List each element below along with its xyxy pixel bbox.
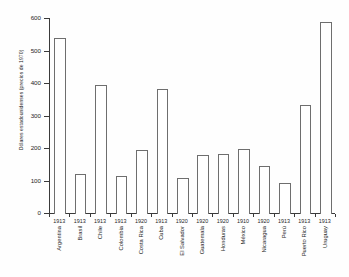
x-tick-mark [315,214,316,217]
bar [300,105,312,214]
bar [259,166,271,214]
x-country-label-text: Guatemala [199,226,205,254]
x-country-label-wrap: Brasil [70,226,90,274]
bar-chart: Dólares estadounidenses (precios de 1970… [0,0,349,277]
x-tick-mark [335,214,336,217]
x-tick-mark [49,214,50,217]
x-country-label-wrap: El Salvador [172,226,192,274]
x-year-label: 1920 [192,218,212,224]
x-country-label-text: Brasil [77,226,83,241]
x-country-label-text: México [240,226,246,244]
y-tick-mark [44,116,49,117]
y-tick-label: 500 [12,48,41,54]
x-country-label-wrap: Honduras [213,226,233,274]
y-tick-label: 300 [12,113,41,119]
bars-group [49,18,335,214]
bar [95,85,107,214]
x-axis-labels: 1913Argentina1913Brasil1913Chile1913Colo… [49,218,335,277]
y-tick-mark [44,213,49,214]
x-year-label: 1913 [294,218,314,224]
bar [136,150,148,214]
y-tick-label: 600 [12,15,41,21]
x-year-label: 1910 [233,218,253,224]
x-tick-mark [90,214,91,217]
y-axis-label: Dólares estadounidenses (precios de 1970… [14,0,28,200]
x-country-label-wrap: Cuba [151,226,171,274]
x-country-label-text: Colombia [118,226,124,251]
x-country-label-wrap: Costa Rica [131,226,151,274]
x-country-label-text: Costa Rica [138,226,144,254]
bar [218,154,230,214]
x-country-label-text: Uruguay [322,226,328,248]
x-tick-mark [151,214,152,217]
x-country-label-text: Perú [281,226,287,238]
x-country-label-text: El Salvador [179,226,185,256]
y-tick-label: 400 [12,80,41,86]
x-country-label-text: Cuba [158,226,164,240]
x-year-label: 1913 [70,218,90,224]
x-country-label-wrap: Guatemala [192,226,212,274]
y-tick-label: 100 [12,178,41,184]
y-tick-mark [44,181,49,182]
x-year-label: 1913 [49,218,69,224]
x-country-label-wrap: Puerto Rico [294,226,314,274]
bar [279,183,291,214]
x-country-label-text: Honduras [220,226,226,251]
x-year-label: 1920 [131,218,151,224]
x-country-label-wrap: Colombia [111,226,131,274]
x-tick-mark [294,214,295,217]
bar [116,176,128,214]
x-country-label-wrap: Nicaragua [254,226,274,274]
bar [320,22,332,214]
x-tick-mark [253,214,254,217]
y-tick-mark [44,18,49,19]
bar [238,149,250,214]
x-tick-mark [131,214,132,217]
x-tick-mark [69,214,70,217]
x-country-label-wrap: México [233,226,253,274]
x-year-label: 1920 [213,218,233,224]
x-tick-mark [172,214,173,217]
bar [157,89,169,214]
x-tick-mark [233,214,234,217]
x-year-label: 1913 [315,218,335,224]
x-country-label-text: Argentina [56,226,62,251]
y-tick-label: 0 [12,210,41,216]
x-tick-mark [212,214,213,217]
x-year-label: 1913 [111,218,131,224]
x-country-label-text: Chile [97,226,103,239]
x-year-label: 1920 [254,218,274,224]
bar [197,155,209,214]
x-country-label-text: Puerto Rico [301,226,307,256]
x-country-label-wrap: Argentina [49,226,69,274]
y-tick-label: 200 [12,145,41,151]
x-country-label-wrap: Perú [274,226,294,274]
x-tick-mark [274,214,275,217]
x-tick-mark [110,214,111,217]
bar [177,178,189,214]
bar [54,38,66,214]
y-tick-mark [44,148,49,149]
x-year-label: 1920 [172,218,192,224]
x-country-label-wrap: Uruguay [315,226,335,274]
x-year-label: 1913 [274,218,294,224]
x-country-label-wrap: Chile [90,226,110,274]
x-year-label: 1913 [90,218,110,224]
bar [75,174,87,214]
x-year-label: 1913 [151,218,171,224]
x-country-label-text: Nicaragua [261,226,267,252]
y-tick-mark [44,51,49,52]
x-tick-mark [192,214,193,217]
y-tick-mark [44,83,49,84]
